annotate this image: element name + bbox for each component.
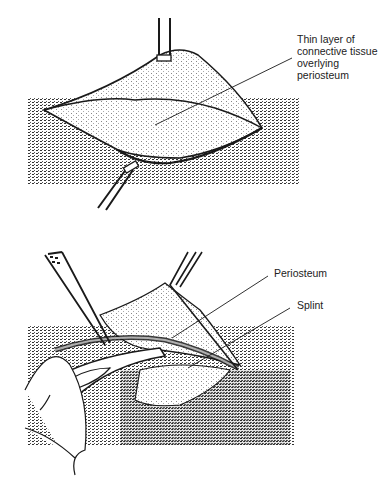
label-line: connective tissue — [297, 45, 378, 57]
illustration-panel-top: Thin layer of connective tissue overlyin… — [0, 0, 385, 225]
label-periosteum: Periosteum — [274, 267, 327, 279]
label-connective-tissue: Thin layer of connective tissue overlyin… — [297, 33, 378, 81]
label-splint: Splint — [297, 299, 323, 311]
label-line: overlying — [297, 57, 378, 69]
illustration-panel-bottom: Periosteum Splint — [0, 240, 385, 488]
label-line: periosteum — [297, 69, 378, 81]
periosteum-splint-illustration — [0, 240, 385, 488]
label-line: Thin layer of — [297, 33, 378, 45]
